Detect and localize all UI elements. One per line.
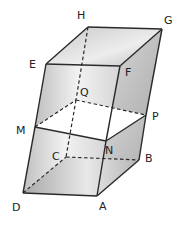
vertex-label-B: B <box>145 152 153 165</box>
parallelepiped-diagram: ABCDEFGHMNPQ <box>0 0 182 226</box>
vertex-label-N: N <box>105 144 113 157</box>
vertex-label-E: E <box>29 58 36 71</box>
vertex-label-H: H <box>77 9 85 22</box>
vertex-label-C: C <box>52 150 60 163</box>
vertex-label-Q: Q <box>80 86 89 99</box>
vertex-label-G: G <box>164 14 173 27</box>
vertex-label-F: F <box>125 66 131 79</box>
vertex-label-A: A <box>99 200 107 213</box>
vertex-label-P: P <box>152 110 159 123</box>
vertex-label-M: M <box>16 124 26 137</box>
vertex-label-D: D <box>12 201 20 214</box>
